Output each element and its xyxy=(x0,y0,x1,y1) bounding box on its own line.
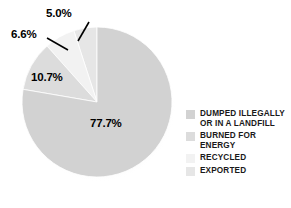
pie-value-label-burned: 10.7% xyxy=(31,71,63,83)
legend-label-dumped: DUMPED ILLEGALLY OR IN A LANDFILL xyxy=(200,109,291,128)
legend-swatch-icon-dumped xyxy=(186,110,195,119)
legend-swatch-icon-recycled xyxy=(186,154,195,163)
legend-item-burned[interactable]: BURNED FOR ENERGY xyxy=(186,131,291,150)
legend-item-dumped[interactable]: DUMPED ILLEGALLY OR IN A LANDFILL xyxy=(186,109,291,128)
legend-label-recycled: RECYCLED xyxy=(200,153,246,163)
legend-label-burned: BURNED FOR ENERGY xyxy=(200,131,291,150)
legend-item-exported[interactable]: EXPORTED xyxy=(186,166,291,176)
pie-value-label-exported: 5.0% xyxy=(46,7,71,19)
pie-value-label-dumped: 77.7% xyxy=(90,117,122,129)
legend-swatch-icon-exported xyxy=(186,167,195,176)
legend-label-exported: EXPORTED xyxy=(200,166,246,176)
pie-plot-area: 77.7% 10.7% 6.6% 5.0% xyxy=(0,0,185,208)
chart-legend: DUMPED ILLEGALLY OR IN A LANDFILL BURNED… xyxy=(186,109,291,179)
legend-item-recycled[interactable]: RECYCLED xyxy=(186,153,291,163)
pie-value-label-recycled: 6.6% xyxy=(11,28,36,40)
pie-chart-figure: 77.7% 10.7% 6.6% 5.0% DUMPED ILLEGALLY O… xyxy=(0,0,291,208)
legend-swatch-icon-burned xyxy=(186,132,195,141)
